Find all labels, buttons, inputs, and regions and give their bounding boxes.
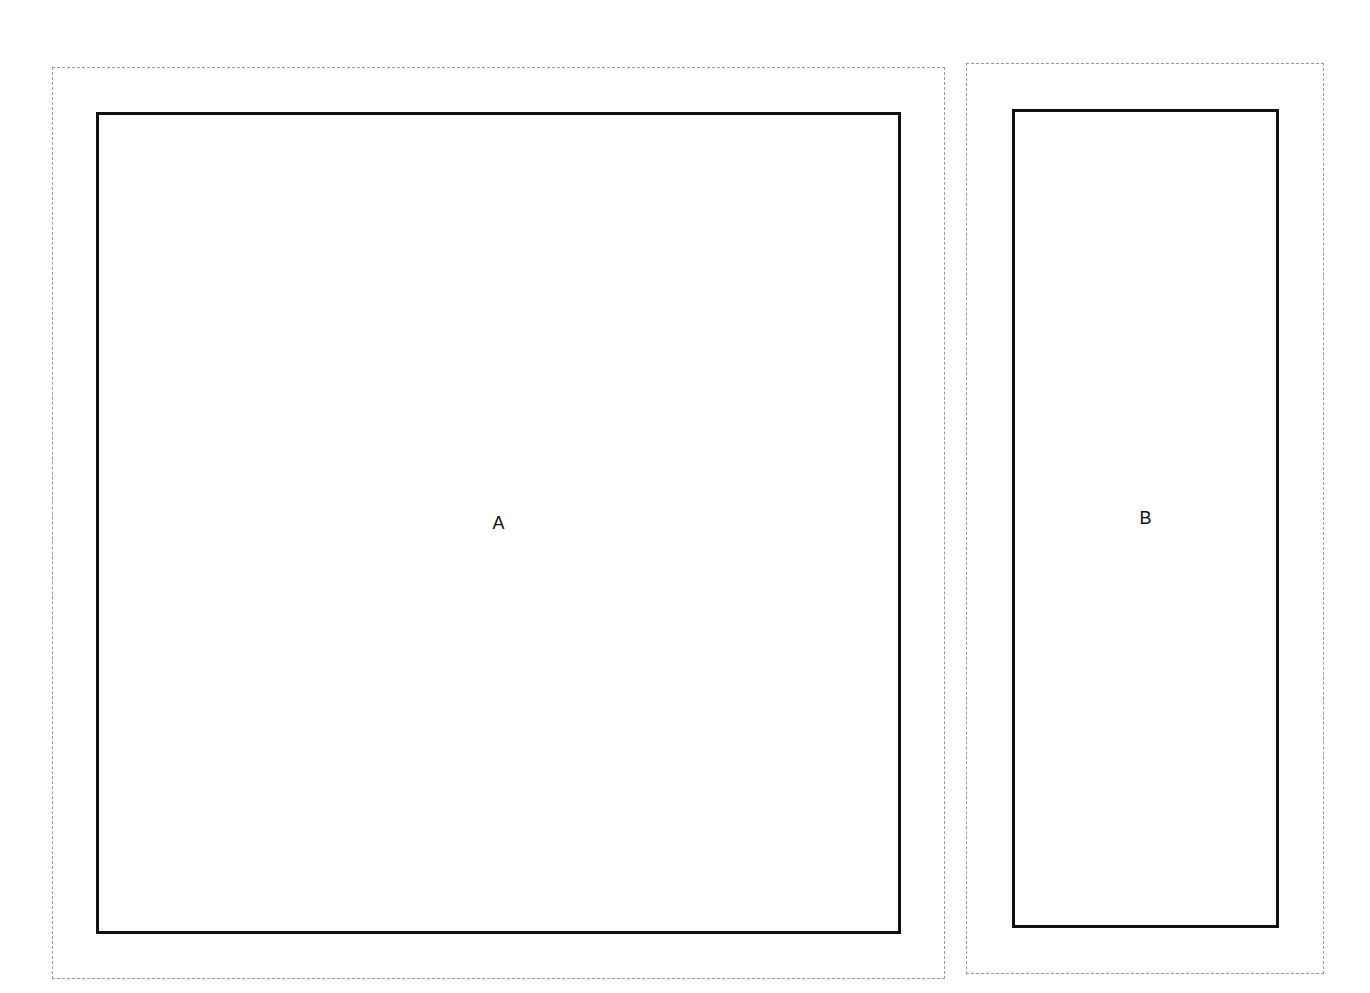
panel-a-box[interactable]: A: [96, 112, 901, 934]
panel-a-label: A: [492, 514, 504, 532]
panel-b-label: B: [1139, 509, 1151, 527]
panel-b-box[interactable]: B: [1012, 109, 1279, 928]
